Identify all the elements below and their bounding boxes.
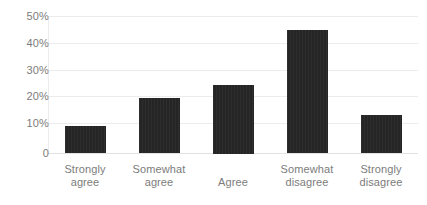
x-tick-label-strongly-disagree: Strongly disagree <box>332 163 427 189</box>
y-tick-label-0: 0 <box>5 148 49 159</box>
y-tick-label-40: 40% <box>5 38 49 49</box>
gridline-40 <box>48 43 418 44</box>
bar-agree[interactable] <box>213 85 254 154</box>
y-tick-label-10: 10% <box>5 118 49 129</box>
bar-somewhat-disagree[interactable] <box>287 30 328 153</box>
y-tick-label-30: 30% <box>5 65 49 76</box>
x-tick-label-line1: Strongly <box>64 163 105 175</box>
gridline-30 <box>48 70 418 71</box>
x-tick-label-line1: Somewhat <box>133 163 186 175</box>
x-tick-label-line2: disagree <box>332 176 427 189</box>
x-tick-label-line1: Agree <box>218 176 248 188</box>
bar-somewhat-agree[interactable] <box>139 98 180 153</box>
bar-chart: 50% 40% 30% 20% 10% 0 Strongly agree Som… <box>0 0 427 205</box>
bar-strongly-agree[interactable] <box>65 126 106 153</box>
x-tick-label-line1: Strongly <box>360 163 401 175</box>
bar-strongly-disagree[interactable] <box>361 115 402 153</box>
gridline-50 <box>48 16 418 17</box>
y-tick-label-20: 20% <box>5 91 49 102</box>
y-tick-label-50: 50% <box>5 11 49 22</box>
x-tick-label-line1: Somewhat <box>281 163 334 175</box>
